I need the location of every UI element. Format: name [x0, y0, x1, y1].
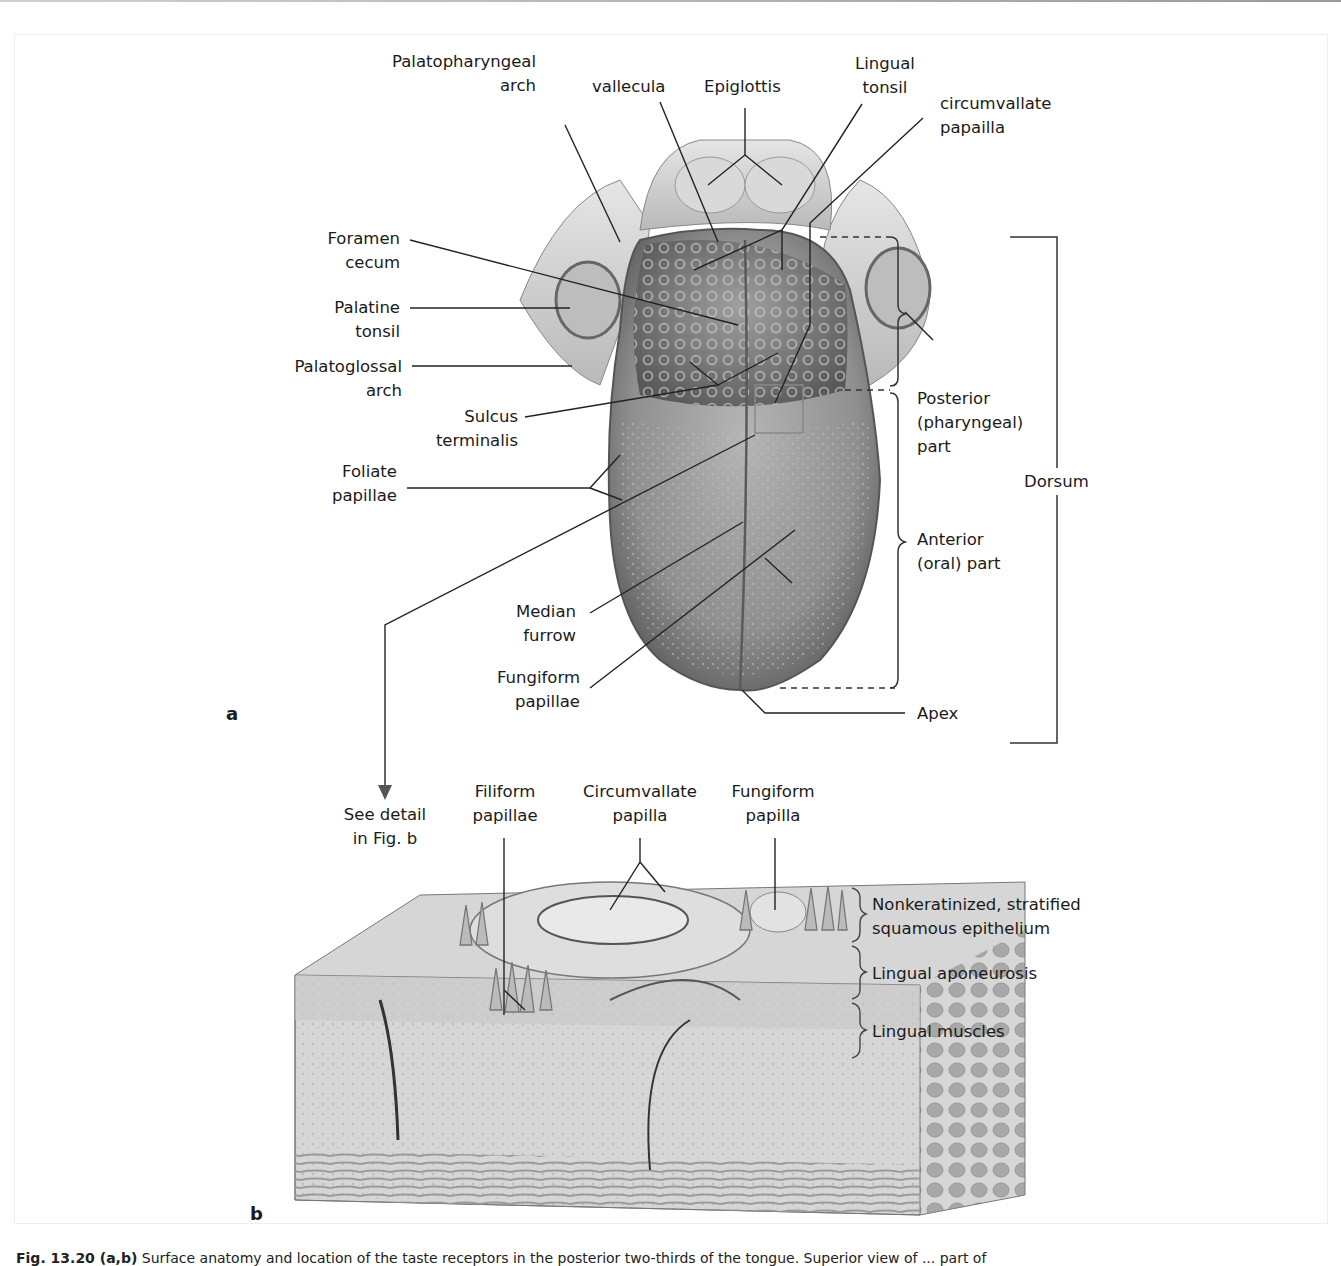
label-palatopharyngeal-arch: Palatopharyngeal arch — [356, 50, 536, 98]
panel-letter-b: b — [250, 1203, 263, 1224]
label-dorsum: Dorsum — [1024, 470, 1089, 494]
label-lingual-muscles: Lingual muscles — [872, 1020, 1005, 1044]
label-anterior-part: Anterior (oral) part — [917, 528, 1001, 576]
label-sulcus-terminalis: Sulcus terminalis — [410, 405, 518, 453]
label-lingual-aponeurosis: Lingual aponeurosis — [872, 962, 1037, 986]
panel-letter-a: a — [226, 703, 238, 724]
label-fungiform-papilla: Fungiform papilla — [718, 780, 828, 828]
label-palatine-tonsil: Palatine tonsil — [300, 296, 400, 344]
label-filiform-papillae: Filiform papillae — [455, 780, 555, 828]
label-epithelium: Nonkeratinized, stratified squamous epit… — [872, 893, 1081, 941]
label-circumvallate-papilla-a: circumvallate papailla — [940, 92, 1051, 140]
figure-caption: Fig. 13.20 (a,b) Surface anatomy and loc… — [16, 1250, 986, 1266]
caption-text: Surface anatomy and location of the tast… — [142, 1250, 987, 1266]
label-see-detail: See detail in Fig. b — [335, 803, 435, 851]
label-epiglottis: Epiglottis — [704, 75, 781, 99]
label-fungiform-papillae: Fungiform papillae — [470, 666, 580, 714]
label-foliate-papillae: Foliate papillae — [300, 460, 397, 508]
label-vallecula: vallecula — [592, 75, 665, 99]
label-circumvallate-papilla-b: Circumvallate papilla — [570, 780, 710, 828]
caption-number: Fig. 13.20 (a,b) — [16, 1250, 137, 1266]
tongue-illustration — [0, 0, 1341, 1266]
label-lingual-tonsil: Lingual tonsil — [840, 52, 930, 100]
label-posterior-part: Posterior (pharyngeal) part — [917, 387, 1023, 459]
label-palatoglossal-arch: Palatoglossal arch — [270, 355, 402, 403]
label-apex: Apex — [917, 702, 958, 726]
label-median-furrow: Median furrow — [480, 600, 576, 648]
tongue-body — [609, 229, 880, 691]
arrow-down-icon — [378, 785, 392, 800]
label-foramen-cecum: Foramen cecum — [300, 227, 400, 275]
